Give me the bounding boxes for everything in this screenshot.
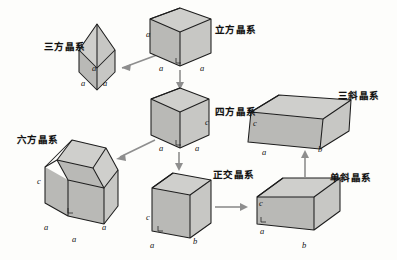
arrow-orthorhombic-to-monoclinic (215, 203, 248, 211)
shape-tetragonal-prism (151, 88, 209, 148)
label-tetragonal-system: 四方晶系 (215, 104, 257, 118)
arrow-cubic-to-tetragonal (176, 70, 184, 90)
axis-label-cubic-a-left: a (146, 29, 150, 39)
axis-label-orthorhombic-a: a (150, 240, 154, 250)
axis-label-monoclinic-a: a (260, 226, 264, 236)
axis-label-trigonal-a-mid: a (92, 63, 96, 73)
axis-label-monoclinic-c: c (259, 198, 263, 208)
axis-label-cubic-a-bottom-left: a (159, 63, 163, 73)
axis-label-triclinic-a: a (262, 147, 266, 157)
arrow-monoclinic-to-triclinic (301, 150, 309, 177)
axis-label-tetragonal-c: c (205, 117, 209, 127)
axis-label-cubic-a-bottom-right: a (200, 63, 204, 73)
axis-label-tetragonal-a-left: a (159, 143, 163, 153)
arrow-tetragonal-to-orthorhombic (175, 152, 183, 171)
axis-label-tetragonal-a-right: a (195, 143, 199, 153)
label-trigonal-system: 三方晶系 (44, 39, 86, 53)
axis-label-triclinic-b: b (318, 144, 322, 154)
axis-label-trigonal-a-left: a (81, 78, 85, 88)
shape-cubic-cube (150, 8, 211, 66)
axis-label-orthorhombic-b: b (193, 236, 197, 246)
label-orthorhombic-system: 正交晶系 (213, 167, 255, 181)
axis-label-trigonal-a-right: a (103, 78, 107, 88)
axis-label-triclinic-c: c (253, 118, 257, 128)
shape-hexagonal-prism (45, 140, 118, 224)
shape-monoclinic-prism (257, 178, 340, 230)
axis-label-orthorhombic-c: c (146, 212, 150, 222)
label-cubic-system: 立方晶系 (215, 22, 257, 36)
shape-orthorhombic-prism (152, 173, 211, 238)
label-hexagonal-system: 六方晶系 (17, 132, 59, 146)
arrow-tetragonal-to-hexagonal (116, 140, 155, 161)
axis-label-hexagonal-c: c (37, 176, 41, 186)
label-triclinic-system: 三斜晶系 (338, 88, 380, 102)
figure-canvas: 三方晶系 立方晶系 四方晶系 六方晶系 正交晶系 单斜晶系 三斜晶系 a a a… (0, 0, 397, 260)
axis-label-hexagonal-a-bottom: a (72, 234, 76, 244)
axis-label-monoclinic-b: b (302, 240, 306, 250)
axis-label-hexagonal-a-left: a (44, 222, 48, 232)
axis-label-hexagonal-a-right: a (102, 222, 106, 232)
label-monoclinic-system: 单斜晶系 (330, 170, 372, 184)
shape-triclinic-prism (248, 95, 351, 149)
